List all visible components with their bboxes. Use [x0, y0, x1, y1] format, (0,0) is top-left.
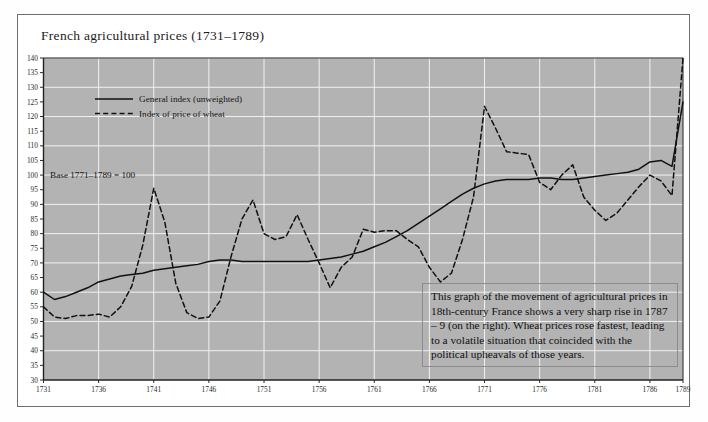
y-axis-tick-label: 130: [27, 83, 38, 92]
y-axis-tick-label: 115: [27, 127, 38, 136]
y-axis-tick-label: 125: [27, 98, 38, 107]
y-axis-tick-label: 100: [27, 171, 38, 180]
y-axis-tick-label: 135: [27, 68, 38, 77]
y-axis-tick-label: 40: [31, 346, 39, 355]
y-axis-tick-label: 90: [31, 200, 39, 209]
x-axis-tick-label: 1776: [532, 385, 547, 394]
legend-label-wheat-price: Index of price of wheat: [139, 109, 225, 119]
figure-page: French agricultural prices (1731–1789) 3…: [0, 0, 708, 422]
y-axis-tick-label: 140: [27, 54, 38, 63]
x-axis-tick-label: 1786: [643, 385, 658, 394]
y-axis-tick-label: 80: [31, 229, 39, 238]
y-axis-tick-label: 70: [31, 259, 39, 268]
x-axis-tick-label: 1766: [422, 385, 437, 394]
y-axis-tick-label: 75: [31, 244, 39, 253]
y-axis-tick-label: 35: [31, 361, 39, 370]
y-axis-tick-label: 65: [31, 273, 39, 282]
x-axis-tick-label: 1746: [201, 385, 216, 394]
y-axis-tick-label: 55: [31, 302, 39, 311]
y-axis-tick-label: 120: [27, 112, 38, 121]
x-axis-tick-label: 1736: [91, 385, 106, 394]
x-axis-tick-label: 1789: [676, 385, 691, 394]
x-axis-tick-label: 1761: [367, 385, 382, 394]
y-axis-tick-label: 30: [31, 376, 39, 385]
caption-box: This graph of the movement of agricultur…: [422, 283, 678, 367]
x-axis-tick-label: 1741: [146, 385, 161, 394]
x-axis-tick-label: 1756: [312, 385, 327, 394]
y-axis-tick-label: 85: [31, 215, 39, 224]
y-axis-tick-label: 60: [31, 288, 39, 297]
base-note-annotation: Base 1771–1789 = 100: [50, 170, 135, 180]
y-axis-tick-label: 45: [31, 332, 39, 341]
y-axis-tick-label: 105: [27, 156, 38, 165]
x-axis-tick-label: 1731: [36, 385, 51, 394]
x-axis-tick-label: 1751: [257, 385, 272, 394]
x-axis-tick-label: 1781: [587, 385, 602, 394]
y-axis-tick-label: 95: [31, 185, 39, 194]
y-axis-tick-label: 110: [27, 141, 38, 150]
x-axis-tick-label: 1771: [477, 385, 492, 394]
legend-label-general-index: General index (unweighted): [139, 94, 242, 104]
y-axis-tick-label: 50: [31, 317, 39, 326]
